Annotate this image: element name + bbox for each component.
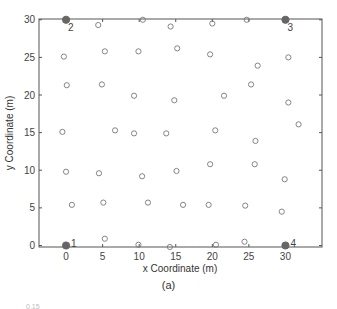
figure-caption: (a) xyxy=(0,279,337,291)
measurement-point-marker xyxy=(61,54,66,59)
y-tick-label: 25 xyxy=(24,52,36,63)
x-tick-label: 5 xyxy=(100,251,106,262)
x-tick-label: 15 xyxy=(170,251,182,262)
measurement-point-marker xyxy=(145,200,150,205)
measurement-point-marker xyxy=(253,138,258,143)
measurement-point-marker xyxy=(174,168,179,173)
reference-point-marker xyxy=(62,242,69,249)
x-tick-label: 20 xyxy=(207,251,219,262)
measurement-point-marker xyxy=(172,98,177,103)
plot-axes: 051015202530051015202530 xyxy=(24,14,322,262)
measurement-point-marker xyxy=(175,46,180,51)
x-tick-label: 10 xyxy=(134,251,146,262)
measurement-point-marker xyxy=(96,22,101,27)
measurement-point-marker xyxy=(69,202,74,207)
measurement-point-marker xyxy=(131,93,136,98)
data-points: 1234 xyxy=(60,16,301,249)
measurement-point-marker xyxy=(101,200,106,205)
scatter-chart: 051015202530051015202530 1234 x Coordina… xyxy=(0,0,337,280)
y-tick-label: 0 xyxy=(29,240,35,251)
measurement-point-marker xyxy=(208,52,213,57)
measurement-point-marker xyxy=(279,209,284,214)
measurement-point-marker xyxy=(140,17,145,22)
measurement-point-marker xyxy=(296,122,301,127)
measurement-point-marker xyxy=(64,83,69,88)
measurement-point-marker xyxy=(102,236,107,241)
reference-point-label: 3 xyxy=(287,22,293,33)
measurement-point-marker xyxy=(242,239,247,244)
y-tick-label: 5 xyxy=(29,202,35,213)
measurement-point-marker xyxy=(136,49,141,54)
measurement-point-marker xyxy=(206,202,211,207)
measurement-point-marker xyxy=(221,93,226,98)
measurement-point-marker xyxy=(282,177,287,182)
measurement-point-marker xyxy=(60,129,65,134)
measurement-point-marker xyxy=(213,128,218,133)
reference-point-label: 4 xyxy=(290,238,296,249)
x-axis-label: x Coordinate (m) xyxy=(143,263,217,274)
measurement-point-marker xyxy=(286,55,291,60)
measurement-point-marker xyxy=(255,63,260,68)
measurement-point-marker xyxy=(286,100,291,105)
x-tick-label: 0 xyxy=(63,251,69,262)
reference-point-marker xyxy=(282,242,289,249)
measurement-point-marker xyxy=(208,162,213,167)
measurement-point-marker xyxy=(63,169,68,174)
measurement-point-marker xyxy=(252,162,257,167)
measurement-point-marker xyxy=(248,82,253,87)
x-tick-label: 30 xyxy=(280,251,292,262)
x-tick-label: 25 xyxy=(243,251,255,262)
measurement-point-marker xyxy=(140,174,145,179)
measurement-point-marker xyxy=(131,131,136,136)
measurement-point-marker xyxy=(243,203,248,208)
reference-point-label: 2 xyxy=(68,22,74,33)
partial-next-figure-text: 0.15 xyxy=(26,303,40,309)
measurement-point-marker xyxy=(96,171,101,176)
measurement-point-marker xyxy=(112,128,117,133)
reference-point-label: 1 xyxy=(71,238,77,249)
measurement-point-marker xyxy=(168,24,173,29)
y-axis-label: y Coordinate (m) xyxy=(4,96,15,170)
y-tick-label: 15 xyxy=(24,127,36,138)
measurement-point-marker xyxy=(164,131,169,136)
y-tick-label: 30 xyxy=(24,14,36,25)
measurement-point-marker xyxy=(99,82,104,87)
measurement-point-marker xyxy=(180,202,185,207)
y-tick-label: 20 xyxy=(24,90,36,101)
y-tick-label: 10 xyxy=(24,165,36,176)
measurement-point-marker xyxy=(102,49,107,54)
